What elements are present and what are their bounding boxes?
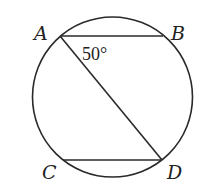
point-label-d: D (166, 161, 182, 183)
chord-ad (60, 36, 162, 160)
point-label-c: C (42, 161, 57, 183)
angle-label-bad: 50° (82, 44, 107, 64)
circle (33, 17, 193, 177)
point-label-a: A (32, 22, 48, 44)
point-label-b: B (170, 22, 185, 44)
circle-diagram: A B C D 50° (0, 0, 206, 188)
